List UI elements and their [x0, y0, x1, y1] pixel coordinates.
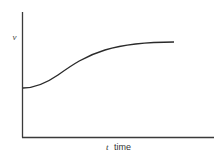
- y-axis-label: v: [13, 32, 17, 42]
- x-axis-symbol: t: [106, 142, 109, 152]
- x-axis-text: time: [114, 142, 131, 152]
- velocity-time-chart: v t time: [0, 0, 223, 160]
- data-curve: [23, 42, 174, 88]
- x-axis-label: t time: [106, 142, 131, 152]
